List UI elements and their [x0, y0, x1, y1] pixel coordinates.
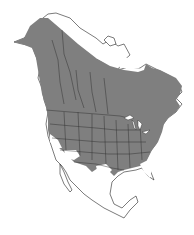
range-map — [0, 0, 194, 235]
